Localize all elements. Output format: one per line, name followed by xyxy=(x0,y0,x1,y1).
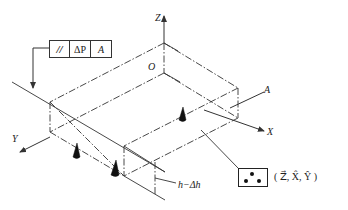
support-dot-icon xyxy=(250,172,254,176)
y-axis xyxy=(20,137,50,152)
datum-a-line xyxy=(230,92,264,108)
x-axis-label: X xyxy=(267,127,273,137)
support-dot-icon xyxy=(244,179,248,183)
feature-control-frame: // ΔP A xyxy=(49,40,112,58)
x-axis xyxy=(204,110,264,131)
three-point-support-symbol xyxy=(238,168,268,187)
fcf-leader xyxy=(33,48,49,88)
tolerance-value: ΔP xyxy=(70,41,91,57)
parallelism-symbol: // xyxy=(50,41,70,57)
support-dot-icon xyxy=(257,179,261,183)
cone-support-icon xyxy=(73,143,80,159)
measured-surface-edge xyxy=(12,82,165,172)
z-axis-label: Z xyxy=(155,13,161,23)
cone-support-icon xyxy=(111,160,119,177)
origin-label: O xyxy=(148,62,155,72)
constraint-text: ( Z⃗, X̂, Ŷ ) xyxy=(274,171,317,182)
datum-a-label: A xyxy=(264,85,270,95)
cone-support-icon xyxy=(179,107,186,122)
height-label: h−Δh xyxy=(178,180,201,190)
diagram-canvas: Z O A X Y h−Δh // ΔP A ( Z⃗, X̂, Ŷ ) xyxy=(0,0,348,210)
support-leader xyxy=(201,130,238,168)
y-axis-label: Y xyxy=(12,134,18,144)
datum-reference: A xyxy=(91,41,111,57)
